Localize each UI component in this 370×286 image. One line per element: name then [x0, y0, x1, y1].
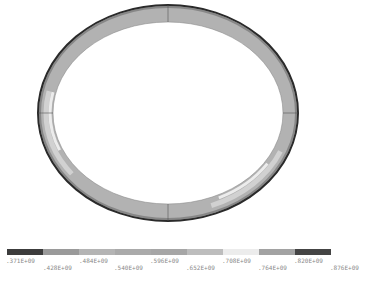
legend-label-5: .652E+09 — [186, 264, 215, 271]
legend-segment-9 — [295, 249, 331, 255]
legend-label-0: .371E+09 — [6, 257, 35, 264]
legend-segment-1 — [7, 249, 43, 255]
legend-label-3: .540E+09 — [114, 264, 143, 271]
legend-segment-8 — [259, 249, 295, 255]
legend-segment-7 — [223, 249, 259, 255]
legend-label-7: .764E+09 — [258, 264, 287, 271]
legend-label-2: .484E+09 — [79, 257, 108, 264]
legend-segment-3 — [79, 249, 115, 255]
ring — [38, 5, 298, 221]
legend-segment-5 — [151, 249, 187, 255]
legend-label-8: .820E+09 — [294, 257, 323, 264]
contour-ring-plot — [0, 0, 370, 240]
legend-label-6: .708E+09 — [222, 257, 251, 264]
contour-legend-colorbar — [7, 249, 331, 255]
legend-segment-2 — [43, 249, 79, 255]
legend-label-9: .876E+09 — [330, 264, 359, 271]
legend-label-4: .596E+09 — [150, 257, 179, 264]
legend-label-1: .428E+09 — [43, 264, 72, 271]
legend-segment-6 — [187, 249, 223, 255]
legend-segment-4 — [115, 249, 151, 255]
